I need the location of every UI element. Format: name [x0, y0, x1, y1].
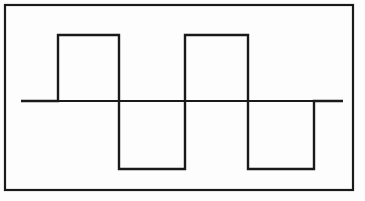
figure-container: [0, 0, 365, 201]
square-wave-figure: [0, 0, 365, 201]
